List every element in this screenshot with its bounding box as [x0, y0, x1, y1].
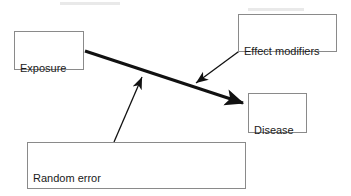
- node-exposure[interactable]: Exposure: [14, 31, 84, 70]
- node-effect-modifiers[interactable]: Effect modifiers: [238, 14, 337, 52]
- node-exposure-label: Exposure: [20, 62, 83, 75]
- scan-artifact-top-right: [248, 8, 304, 11]
- edge-exposure-to-disease: [85, 51, 243, 103]
- node-error-label-line1: Random error: [33, 172, 245, 185]
- edge-error-to-main-arrow: [114, 77, 142, 142]
- node-error-sources[interactable]: Random error Systematic error (bias, con…: [27, 142, 246, 189]
- diagram-canvas: Exposure Effect modifiers Disease Random…: [0, 0, 351, 196]
- node-effect-modifiers-label: Effect modifiers: [244, 45, 336, 58]
- node-disease-label: Disease: [254, 124, 306, 137]
- node-disease[interactable]: Disease: [248, 93, 307, 133]
- scan-artifact-top-left: [60, 2, 120, 5]
